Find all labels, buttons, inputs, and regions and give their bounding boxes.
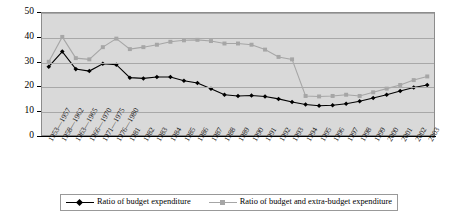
data-point-marker [398, 89, 403, 94]
series-2 [47, 35, 429, 98]
data-point-marker [277, 55, 281, 59]
y-tick-mark [37, 86, 41, 87]
data-point-marker [290, 57, 294, 61]
data-point-marker [398, 83, 402, 87]
data-point-marker [168, 40, 172, 44]
y-tick-mark [37, 136, 41, 137]
gridline [42, 63, 434, 64]
y-tick-label: 20 [25, 82, 35, 92]
y-tick-mark [37, 37, 41, 38]
y-tick-label: 50 [25, 7, 35, 17]
y-tick-label: 40 [25, 32, 35, 42]
data-point-marker [330, 103, 335, 108]
data-point-marker [222, 92, 227, 97]
data-point-marker [303, 102, 308, 107]
y-tick-label: 30 [25, 57, 35, 67]
data-point-marker [344, 93, 348, 97]
series-1 [46, 49, 429, 108]
data-point-marker [371, 90, 375, 94]
data-point-marker [128, 47, 132, 51]
y-tick-label: 10 [25, 106, 35, 116]
data-point-marker [304, 94, 308, 98]
data-point-marker [222, 42, 226, 46]
data-point-marker [263, 48, 267, 52]
legend-label-budget-expenditure: Ratio of budget expenditure [97, 198, 191, 206]
data-point-marker [317, 103, 322, 108]
data-point-marker [371, 96, 376, 101]
data-point-marker [384, 92, 389, 97]
data-point-marker [358, 94, 362, 98]
data-point-marker [425, 74, 429, 78]
data-point-marker [331, 94, 335, 98]
legend-entry-budget-and-extra-budget-expenditure: Ratio of budget and extra-budget expendi… [209, 198, 392, 207]
legend-marker-grey-square-icon [209, 198, 237, 207]
gridline [42, 38, 434, 39]
data-point-marker [155, 75, 160, 80]
data-point-marker [87, 57, 91, 61]
data-point-marker [250, 43, 254, 47]
data-point-marker [182, 79, 187, 84]
data-point-marker [87, 69, 92, 74]
y-tick-mark [37, 12, 41, 13]
gridline [42, 13, 434, 14]
data-point-marker [263, 94, 268, 99]
data-point-marker [412, 78, 416, 82]
chart-legend: Ratio of budget expenditure Ratio of bud… [60, 194, 398, 211]
data-point-marker [236, 94, 241, 99]
data-point-marker [249, 93, 254, 98]
data-point-marker [182, 38, 186, 42]
legend-label-budget-and-extra-budget-expenditure: Ratio of budget and extra-budget expendi… [240, 198, 392, 206]
legend-marker-black-diamond-icon [66, 198, 94, 207]
y-tick-mark [37, 62, 41, 63]
data-point-marker [344, 102, 349, 107]
y-tick-mark [37, 111, 41, 112]
gridline [42, 87, 434, 88]
y-tick-label: 0 [29, 131, 34, 141]
y-axis-labels: 01020304050 [0, 12, 38, 136]
data-point-marker [209, 39, 213, 43]
data-point-marker [168, 75, 173, 80]
data-point-marker [195, 81, 200, 86]
data-point-marker [101, 45, 105, 49]
legend-entry-budget-expenditure: Ratio of budget expenditure [66, 198, 191, 207]
x-axis-labels: 1953—19571958—19621963—19651966—19701971… [41, 137, 435, 187]
data-point-marker [155, 43, 159, 47]
data-point-marker [141, 45, 145, 49]
data-point-marker [236, 42, 240, 46]
data-point-marker [141, 76, 146, 81]
data-point-marker [317, 94, 321, 98]
data-point-marker [276, 97, 281, 102]
line-chart-figure: 01020304050 1953—19571958—19621963—19651… [0, 0, 454, 223]
data-point-marker [74, 56, 78, 60]
data-point-marker [357, 99, 362, 104]
data-point-marker [290, 100, 295, 105]
